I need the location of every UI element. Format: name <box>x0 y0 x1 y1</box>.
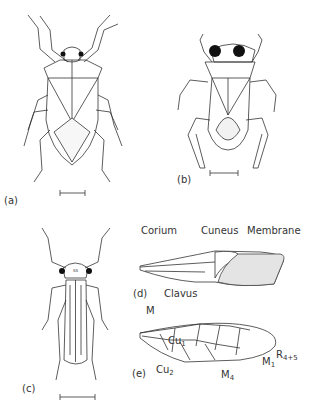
eye-icon <box>59 268 65 274</box>
panel-label-b: (b) <box>177 175 191 185</box>
figure-drawing: ss <box>0 0 313 413</box>
label-r45: R4+5 <box>276 350 298 362</box>
panel-label-a: (a) <box>4 196 18 206</box>
label-cu1: Cu1 <box>168 336 186 348</box>
label-m1: M1 <box>262 357 275 369</box>
panel-label-e: (e) <box>132 369 146 379</box>
label-cuneus: Cuneus <box>201 226 238 236</box>
panel-label-c: (c) <box>22 384 35 394</box>
panel-label-d: (d) <box>133 289 147 299</box>
label-clavus: Clavus <box>164 289 197 299</box>
eye-icon <box>61 52 66 57</box>
label-membrane: Membrane <box>247 226 301 236</box>
eye-icon <box>233 45 245 57</box>
label-corium: Corium <box>141 226 177 236</box>
eye-icon <box>86 268 92 274</box>
insect-c: ss <box>42 228 110 400</box>
wing-e <box>140 323 276 362</box>
eye-icon <box>209 45 221 57</box>
label-m4: M4 <box>221 370 234 382</box>
wing-d <box>140 251 284 286</box>
label-cu2: Cu2 <box>156 365 174 377</box>
eye-icon <box>79 52 84 57</box>
svg-text:ss: ss <box>73 267 79 273</box>
insect-a <box>24 15 122 196</box>
label-m: M <box>146 306 155 316</box>
insect-b <box>178 34 276 176</box>
